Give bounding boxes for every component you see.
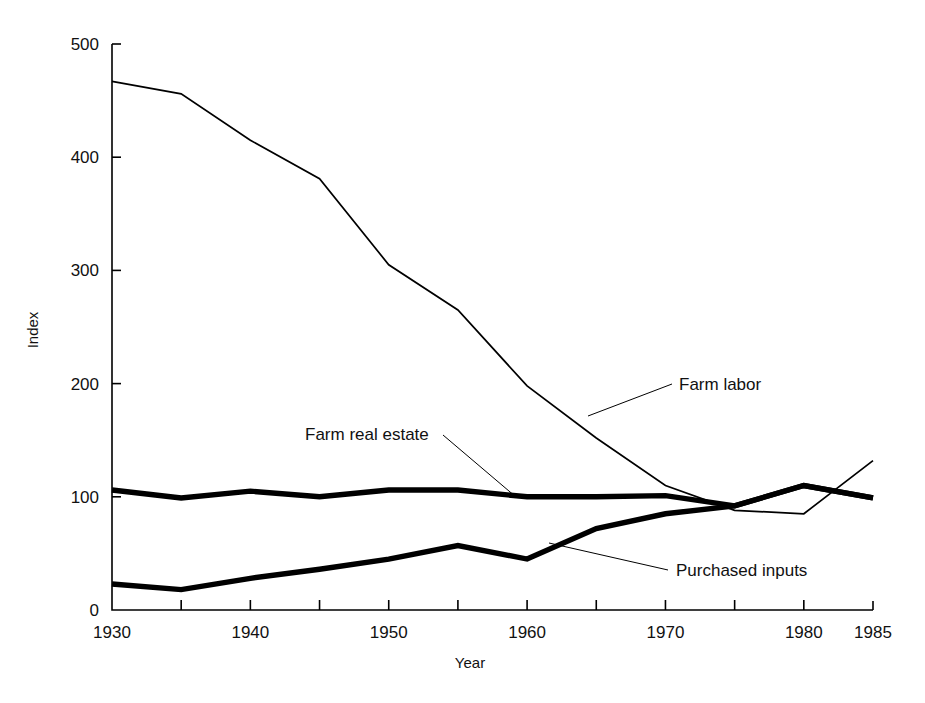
y-tick-label: 100 (71, 488, 99, 507)
y-tick-label: 500 (71, 35, 99, 54)
x-tick-label: 1985 (854, 623, 892, 642)
series-label-farm-labor: Farm labor (679, 375, 762, 394)
y-tick-label: 300 (71, 261, 99, 280)
x-tick-label: 1980 (785, 623, 823, 642)
x-tick-label: 1940 (231, 623, 269, 642)
y-tick-label: 200 (71, 375, 99, 394)
y-tick-label: 0 (90, 601, 99, 620)
series-label-farm-real-estate: Farm real estate (305, 425, 429, 444)
line-chart: 0100200300400500 19301940195019601970198… (0, 0, 925, 703)
y-axis-title: Index (24, 311, 41, 348)
chart-background (0, 0, 925, 703)
y-tick-label: 400 (71, 148, 99, 167)
chart-figure: 0100200300400500 19301940195019601970198… (0, 0, 925, 703)
x-tick-label: 1960 (508, 623, 546, 642)
x-tick-label: 1950 (370, 623, 408, 642)
x-tick-label: 1930 (93, 623, 131, 642)
x-axis-title: Year (455, 654, 485, 671)
series-label-purchased-inputs: Purchased inputs (676, 561, 807, 580)
x-tick-label: 1970 (647, 623, 685, 642)
